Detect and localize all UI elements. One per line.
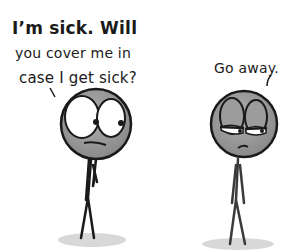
right-stick-figure xyxy=(211,91,277,244)
left-eye-1 xyxy=(65,96,99,138)
left-speech-pointer xyxy=(50,88,55,97)
left-ground-shadow xyxy=(58,233,126,247)
comic-panel: I’m sick. Will you cover me in case I ge… xyxy=(0,0,292,252)
right-speech-pointer xyxy=(267,75,271,86)
right-eyelid-2 xyxy=(245,128,267,129)
right-ground-shadow xyxy=(202,238,274,250)
comic-illustration xyxy=(0,0,292,252)
left-pupil-2 xyxy=(118,120,124,126)
left-pupil-1 xyxy=(93,119,99,125)
right-eyelid-1 xyxy=(220,127,244,128)
left-eye-2 xyxy=(97,99,125,137)
left-stick-figure xyxy=(61,89,131,238)
